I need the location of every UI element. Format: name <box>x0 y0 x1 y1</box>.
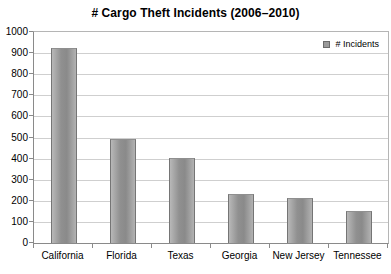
gridline <box>34 74 388 75</box>
x-label-georgia: Georgia <box>210 250 269 261</box>
y-tick-mark <box>29 221 33 222</box>
bar-texas <box>169 158 195 243</box>
y-tick-label: 700 <box>0 89 28 100</box>
x-label-texas: Texas <box>151 250 210 261</box>
x-tick-mark <box>387 244 388 248</box>
x-tick-mark <box>269 244 270 248</box>
x-label-california: California <box>33 250 92 261</box>
gridline <box>34 222 388 223</box>
y-tick-mark <box>29 52 33 53</box>
x-tick-mark <box>210 244 211 248</box>
x-label-florida: Florida <box>92 250 151 261</box>
y-tick-mark <box>29 200 33 201</box>
legend: # Incidents <box>323 39 379 49</box>
cargo-theft-bar-chart: # Cargo Theft Incidents (2006–2010) # In… <box>0 0 391 274</box>
chart-title: # Cargo Theft Incidents (2006–2010) <box>0 6 391 20</box>
x-label-new-jersey: New Jersey <box>269 250 328 261</box>
y-tick-mark <box>29 158 33 159</box>
gridline <box>34 138 388 139</box>
y-tick-label: 300 <box>0 174 28 185</box>
gridline <box>34 95 388 96</box>
y-tick-mark <box>29 242 33 243</box>
y-tick-label: 200 <box>0 195 28 206</box>
x-label-tennessee: Tennessee <box>328 250 387 261</box>
gridline <box>34 116 388 117</box>
y-tick-label: 0 <box>0 237 28 248</box>
x-tick-mark <box>33 244 34 248</box>
bar-california <box>51 48 77 243</box>
gridline <box>34 53 388 54</box>
y-tick-mark <box>29 31 33 32</box>
y-tick-label: 400 <box>0 153 28 164</box>
gridline <box>34 180 388 181</box>
gridline <box>34 201 388 202</box>
y-tick-label: 800 <box>0 68 28 79</box>
y-tick-label: 600 <box>0 110 28 121</box>
y-tick-mark <box>29 137 33 138</box>
y-tick-mark <box>29 73 33 74</box>
bar-tennessee <box>346 211 372 243</box>
x-tick-mark <box>92 244 93 248</box>
legend-marker-icon <box>323 41 330 48</box>
y-tick-label: 1000 <box>0 26 28 37</box>
y-tick-mark <box>29 115 33 116</box>
plot-area: # Incidents <box>33 31 389 244</box>
y-tick-mark <box>29 94 33 95</box>
gridline <box>34 159 388 160</box>
bar-georgia <box>228 194 254 243</box>
x-tick-mark <box>151 244 152 248</box>
bar-florida <box>110 139 136 243</box>
bar-new-jersey <box>287 198 313 243</box>
x-tick-mark <box>328 244 329 248</box>
y-tick-label: 500 <box>0 132 28 143</box>
y-tick-label: 900 <box>0 47 28 58</box>
y-tick-mark <box>29 179 33 180</box>
legend-label: # Incidents <box>335 39 379 49</box>
y-tick-label: 100 <box>0 216 28 227</box>
